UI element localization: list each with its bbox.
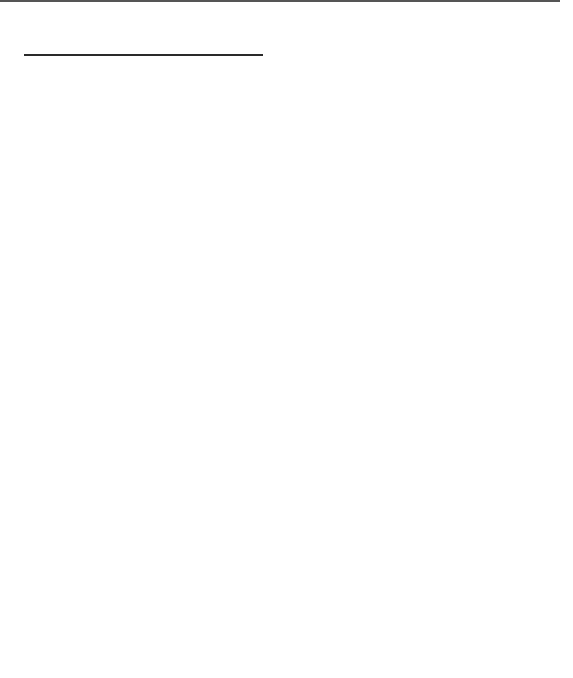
abr-diagram-artwork: [0, 0, 573, 678]
